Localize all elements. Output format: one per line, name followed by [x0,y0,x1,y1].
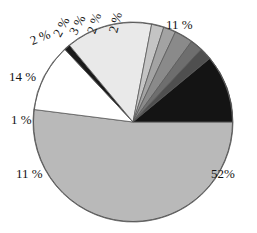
slice-label-11-percent-top: 11 % [166,18,193,31]
slice-label-1-percent: 1 % [11,113,32,126]
slice-label-52-percent: 52% [211,167,235,180]
pie-chart: 2 % 2 % 3 % 2 % 2 % 11 % 14 % 1 % 11 % 5… [0,0,257,233]
slice-label-11-percent-bottom: 11 % [16,167,43,180]
pie-slice [33,109,233,222]
slice-label-14-percent: 14 % [9,70,36,83]
